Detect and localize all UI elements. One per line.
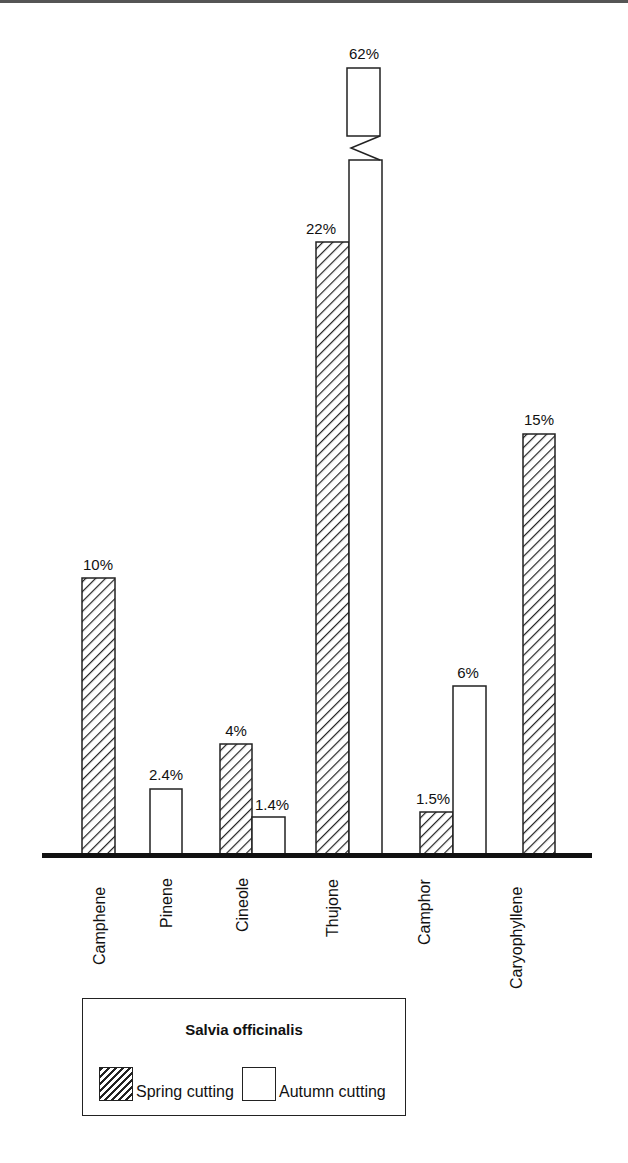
x-axis-baseline bbox=[42, 853, 592, 858]
bar-pinene-autumn bbox=[150, 789, 182, 855]
category-pinene: Pinene bbox=[158, 878, 175, 928]
bar-thujone-autumn bbox=[347, 68, 382, 855]
bar-camphene-spring bbox=[82, 578, 115, 855]
bar-chart: 10% 2.4% 4% 1.4% 22% 62% 1.5% 6% 15% Cam… bbox=[0, 0, 628, 1000]
category-thujone: Thujone bbox=[324, 879, 341, 937]
plain-swatch-icon bbox=[242, 1067, 276, 1101]
label-pinene-autumn: 2.4% bbox=[149, 766, 183, 783]
label-cineole-spring: 4% bbox=[225, 722, 247, 739]
label-thujone-spring: 22% bbox=[306, 220, 336, 237]
category-camphor: Camphor bbox=[416, 879, 433, 945]
bar-caryophyllene-spring bbox=[523, 434, 555, 855]
label-cineole-autumn: 1.4% bbox=[255, 796, 289, 813]
bar-thujone-spring bbox=[316, 242, 349, 855]
legend-item-autumn: Autumn cutting bbox=[242, 1067, 386, 1101]
legend: Salvia officinalis Spring cutting Autumn… bbox=[82, 998, 406, 1116]
bar-cineole-autumn bbox=[252, 817, 285, 855]
label-camphor-spring: 1.5% bbox=[416, 790, 450, 807]
legend-label-autumn: Autumn cutting bbox=[279, 1083, 386, 1101]
legend-title: Salvia officinalis bbox=[83, 1021, 405, 1038]
bar-camphor-spring bbox=[420, 812, 453, 855]
hatched-swatch-icon bbox=[99, 1067, 133, 1101]
category-camphene: Camphene bbox=[91, 887, 108, 965]
legend-label-spring: Spring cutting bbox=[136, 1083, 234, 1101]
category-cineole: Cineole bbox=[234, 878, 251, 932]
label-camphor-autumn: 6% bbox=[457, 664, 479, 681]
label-thujone-autumn: 62% bbox=[349, 45, 379, 62]
label-camphene-spring: 10% bbox=[83, 556, 113, 573]
bar-camphor-autumn bbox=[453, 686, 486, 855]
axis-break-icon bbox=[351, 136, 380, 160]
bar-cineole-spring bbox=[220, 744, 252, 855]
category-caryophyllene: Caryophyllene bbox=[508, 887, 525, 989]
label-caryophyllene-spring: 15% bbox=[524, 411, 554, 428]
legend-item-spring: Spring cutting bbox=[99, 1067, 234, 1101]
